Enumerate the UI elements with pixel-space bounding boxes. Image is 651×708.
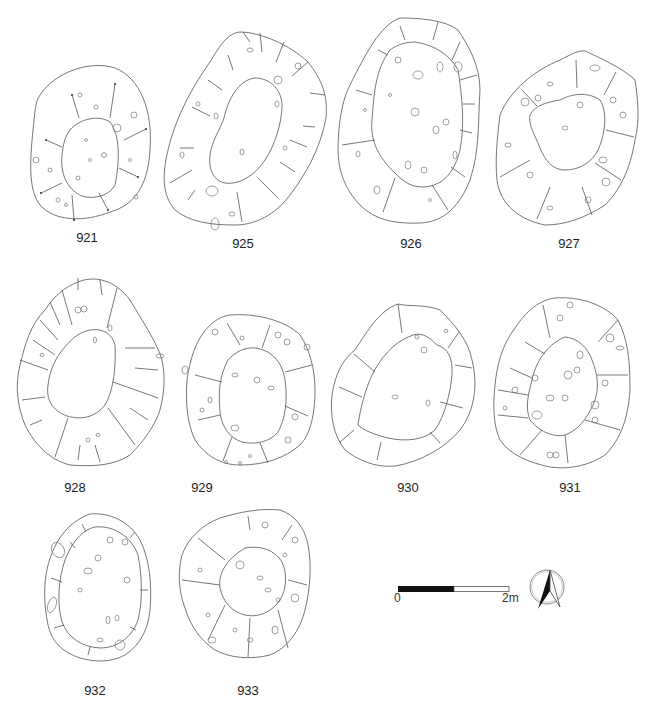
feature-921-drawing <box>0 0 170 240</box>
feature-label-932: 932 <box>65 683 125 698</box>
feature-931-drawing <box>480 280 651 480</box>
feature-928-drawing <box>0 250 180 480</box>
scale-bar <box>398 582 513 600</box>
feature-932-drawing <box>0 500 170 680</box>
feature-label-929: 929 <box>172 480 232 495</box>
feature-label-931: 931 <box>540 480 600 495</box>
feature-930-drawing <box>320 280 490 480</box>
feature-label-928: 928 <box>45 480 105 495</box>
feature-927-drawing <box>480 30 651 240</box>
feature-926-drawing <box>320 0 490 240</box>
feature-925-drawing <box>150 0 330 240</box>
feature-label-927: 927 <box>539 236 599 251</box>
scale-bar-end-label: 2m <box>502 591 519 605</box>
scale-bar-start-label: 0 <box>394 591 401 605</box>
scale-bar-graphic <box>398 586 513 596</box>
feature-label-926: 926 <box>381 236 441 251</box>
feature-933-drawing <box>170 500 320 680</box>
feature-929-drawing <box>160 280 320 480</box>
feature-label-921: 921 <box>57 230 117 245</box>
feature-label-933: 933 <box>218 683 278 698</box>
feature-label-930: 930 <box>378 480 438 495</box>
feature-label-925: 925 <box>213 236 273 251</box>
